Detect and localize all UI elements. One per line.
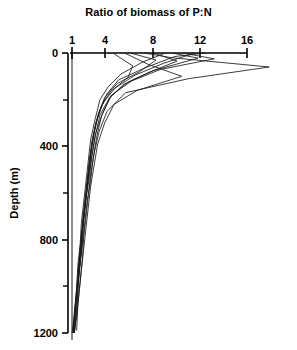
y-axis-ticks xyxy=(62,53,68,333)
y-tick-label-400: 400 xyxy=(40,140,58,152)
x-tick-label-12: 12 xyxy=(194,34,206,46)
plot-area: 1 4 8 12 16 0 400 800 xyxy=(0,0,297,350)
data-series-line xyxy=(73,53,206,332)
y-axis-tick-labels: 0 400 800 1200 xyxy=(34,47,58,339)
data-series-line xyxy=(77,53,270,331)
x-tick-label-8: 8 xyxy=(150,34,156,46)
y-tick-label-800: 800 xyxy=(40,234,58,246)
x-axis-tick-labels: 1 4 8 12 16 xyxy=(69,34,253,46)
y-axis: 0 400 800 1200 Depth (m) xyxy=(8,47,68,339)
x-tick-label-4: 4 xyxy=(102,34,109,46)
data-series-line xyxy=(72,53,195,333)
data-series-line xyxy=(74,53,181,333)
x-tick-label-16: 16 xyxy=(241,34,253,46)
chart-figure: Ratio of biomass of P:N 1 4 8 12 16 xyxy=(0,0,297,350)
data-series-line xyxy=(73,53,156,333)
data-series-line xyxy=(74,53,214,332)
data-series-line xyxy=(73,53,198,333)
y-axis-title: Depth (m) xyxy=(8,167,20,219)
y-tick-label-0: 0 xyxy=(52,47,58,59)
data-series-group xyxy=(72,53,269,333)
y-tick-label-1200: 1200 xyxy=(34,327,58,339)
x-tick-label-1: 1 xyxy=(69,34,75,46)
